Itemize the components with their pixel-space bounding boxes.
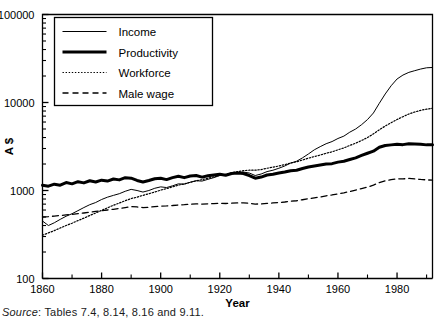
legend-label-income: Income — [119, 26, 157, 38]
legend-label-productivity: Productivity — [119, 47, 179, 59]
x-axis-title: Year — [225, 297, 250, 309]
y-tick-label: 1000 — [10, 185, 34, 197]
x-tick-label: 1960 — [326, 283, 350, 295]
series-line-productivity — [43, 144, 433, 186]
legend-label-workforce: Workforce — [119, 67, 171, 79]
y-axis-title: A $ — [3, 137, 15, 155]
y-tick-label: 10000 — [4, 97, 35, 109]
x-tick-label: 1860 — [30, 283, 54, 295]
source-label: Source — [2, 306, 38, 318]
series-line-workforce — [43, 108, 433, 235]
source-caption: Source: Tables 7.4, 8.14, 8.16 and 9.11. — [2, 306, 204, 318]
y-tick-label: 100000 — [0, 9, 35, 21]
x-tick-label: 1980 — [385, 283, 409, 295]
x-tick-label: 1920 — [208, 283, 232, 295]
x-tick-label: 1940 — [267, 283, 291, 295]
legend-label-male-wage: Male wage — [119, 88, 175, 100]
figure-container: 1001000100001000001860188019001920194019… — [0, 0, 444, 326]
source-text: : Tables 7.4, 8.14, 8.16 and 9.11. — [38, 306, 204, 318]
x-tick-label: 1880 — [89, 283, 113, 295]
x-tick-label: 1900 — [148, 283, 172, 295]
chart-canvas: 1001000100001000001860188019001920194019… — [0, 0, 444, 326]
